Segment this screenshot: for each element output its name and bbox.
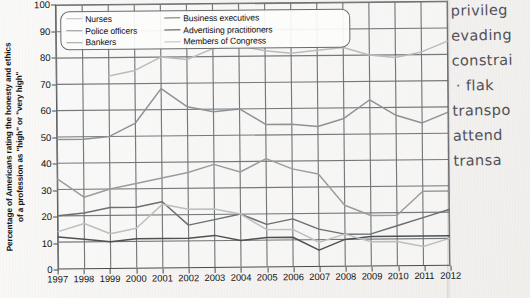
x-tick-label: 1997 — [47, 273, 68, 284]
x-tick-mark — [110, 269, 111, 274]
legend-item[interactable]: Police officers — [66, 24, 164, 37]
x-tick-label: 2007 — [309, 271, 330, 282]
legend-swatch-icon — [164, 18, 180, 19]
legend-item[interactable]: Bankers — [66, 36, 164, 49]
x-tick-mark — [58, 269, 59, 274]
handwritten-note-line: privileg — [450, 0, 530, 24]
x-tick-label: 1999 — [100, 273, 121, 284]
x-tick-mark — [215, 268, 216, 273]
x-tick-label: 2002 — [178, 272, 199, 283]
legend-swatch-icon — [164, 41, 180, 42]
series-line-bankers — [58, 157, 450, 219]
x-tick-mark — [293, 267, 294, 272]
legend-label: Nurses — [85, 14, 112, 24]
legend-swatch-icon — [66, 30, 82, 31]
x-tick-mark — [372, 266, 373, 271]
y-tick-label: 10 — [26, 238, 52, 249]
x-tick-mark — [189, 268, 190, 273]
handwritten-note-line: · flak — [452, 72, 530, 98]
x-tick-label: 2001 — [152, 272, 173, 283]
x-tick-label: 2003 — [204, 272, 225, 283]
y-tick-label: 90 — [24, 26, 50, 37]
x-tick-label: 2004 — [231, 272, 252, 283]
x-tick-mark — [162, 268, 163, 273]
legend-label: Bankers — [85, 37, 116, 47]
x-tick-mark — [84, 269, 85, 274]
y-tick-label: 20 — [26, 211, 52, 222]
y-tick-label: 60 — [25, 105, 51, 116]
x-tick-mark — [320, 267, 321, 272]
x-tick-label: 2011 — [414, 270, 434, 281]
x-tick-label: 2008 — [335, 271, 356, 282]
x-tick-label: 2006 — [283, 271, 304, 282]
y-tick-label: 80 — [25, 52, 51, 63]
x-tick-mark — [267, 267, 268, 272]
legend-label: Business executives — [183, 12, 259, 23]
x-tick-label: 2009 — [362, 270, 383, 281]
y-tick-label: 100 — [24, 0, 50, 10]
x-tick-mark — [398, 266, 399, 271]
series-line-members-of-congress — [58, 202, 449, 250]
x-tick-mark — [136, 269, 137, 274]
series-line-police-officers — [57, 86, 448, 140]
chart-legend: NursesBusiness executivesPolice officers… — [60, 9, 350, 51]
x-tick-mark — [424, 266, 425, 271]
handwritten-note-line: transpo — [452, 97, 530, 123]
x-tick-mark — [241, 268, 242, 273]
legend-swatch-icon — [66, 19, 82, 20]
legend-label: Members of Congress — [183, 36, 266, 47]
y-tick-label: 70 — [25, 79, 51, 90]
x-tick-label: 1998 — [73, 273, 94, 284]
legend-swatch-icon — [66, 42, 82, 43]
handwritten-note-line: transa — [453, 147, 530, 173]
handwritten-note-line: evading — [451, 22, 530, 48]
handwritten-note-line: attend — [453, 122, 530, 148]
legend-item[interactable]: Members of Congress — [164, 34, 345, 47]
y-tick-label: 30 — [26, 185, 52, 196]
x-tick-label: 2000 — [126, 273, 147, 284]
legend-label: Advertising practitioners — [183, 24, 272, 35]
handwritten-notes: privilegevadingconstrai· flaktranspoatte… — [450, 0, 530, 174]
handwritten-note-line: constrai — [451, 47, 530, 73]
x-tick-mark — [346, 267, 347, 272]
legend-swatch-icon — [164, 29, 180, 30]
line-chart-figure: Percentage of Americans rating the hones… — [0, 0, 463, 298]
legend-item[interactable]: Nurses — [66, 13, 164, 26]
series-line-advertising-practitioners — [58, 233, 449, 253]
y-tick-label: 40 — [26, 158, 52, 169]
x-tick-label: 2010 — [388, 270, 409, 281]
x-tick-label: 2005 — [257, 271, 278, 282]
series-line-business-executives — [58, 199, 449, 237]
legend-label: Police officers — [85, 25, 137, 35]
y-tick-label: 50 — [25, 132, 51, 143]
